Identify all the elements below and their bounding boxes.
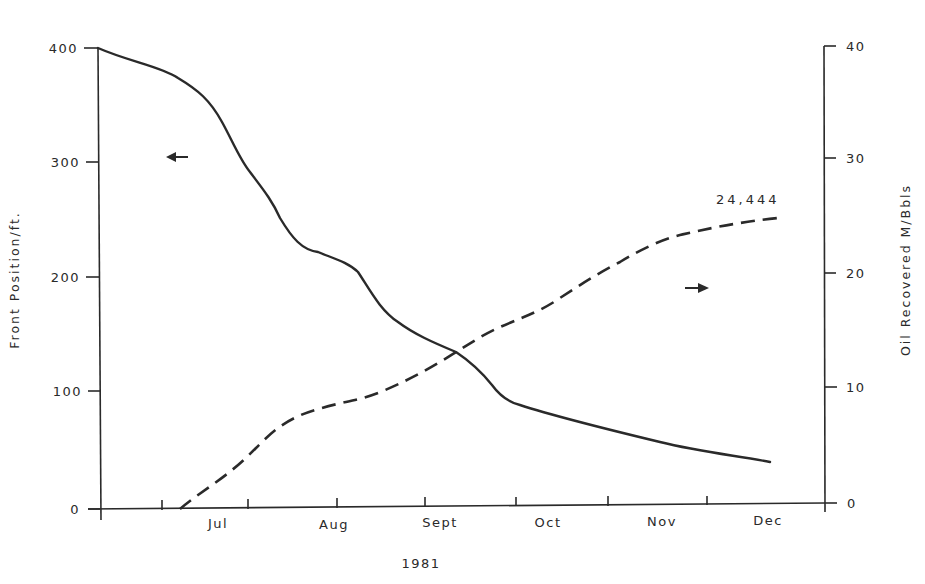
front-position-oil-recovery-chart: 400 300 200 100 0 Front Position/ft. 40 … xyxy=(0,0,925,584)
x-tick-nov: Nov xyxy=(647,514,677,529)
right-arrow-icon xyxy=(685,283,709,293)
x-tick-labels: Jul Aug Sept Oct Nov Dec xyxy=(207,513,783,532)
x-tick-oct: Oct xyxy=(535,515,562,530)
y-tick-400: 400 xyxy=(49,41,78,56)
y-tick-100: 100 xyxy=(53,384,82,399)
y-axis-right-title: Oil Recovered M/Bbls xyxy=(898,184,913,356)
y2-tick-20: 20 xyxy=(846,266,866,281)
left-y-axis xyxy=(84,48,101,520)
x-axis xyxy=(88,496,825,510)
y-tick-0: 0 xyxy=(70,502,80,517)
final-value-annotation: 24,444 xyxy=(716,192,780,207)
front-position-series xyxy=(98,48,770,462)
y2-tick-10: 10 xyxy=(846,380,866,395)
y-tick-200: 200 xyxy=(51,270,80,285)
left-arrow-icon xyxy=(166,152,188,162)
right-y-axis xyxy=(824,46,837,512)
x-tick-aug: Aug xyxy=(319,517,349,532)
y2-tick-0: 0 xyxy=(847,496,857,511)
y-tick-300: 300 xyxy=(51,155,80,170)
right-y-tick-labels: 40 30 20 10 0 xyxy=(846,39,866,511)
y2-tick-40: 40 xyxy=(846,39,866,54)
oil-recovered-series xyxy=(180,218,778,509)
x-tick-sept: Sept xyxy=(422,515,458,530)
left-y-tick-labels: 400 300 200 100 0 xyxy=(49,41,82,517)
x-tick-dec: Dec xyxy=(753,513,783,528)
x-axis-title: 1981 xyxy=(401,556,440,571)
y2-tick-30: 30 xyxy=(846,151,866,166)
x-tick-jul: Jul xyxy=(207,516,228,531)
y-axis-left-title: Front Position/ft. xyxy=(7,211,22,349)
